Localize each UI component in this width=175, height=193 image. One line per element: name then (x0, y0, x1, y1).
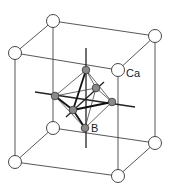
corner-atom-label: Ca (126, 68, 140, 79)
center-atom-label: B (91, 123, 98, 134)
unit-cell-svg (0, 0, 175, 193)
cube-edges (15, 21, 155, 176)
perovskite-diagram: Ca B (0, 0, 175, 193)
